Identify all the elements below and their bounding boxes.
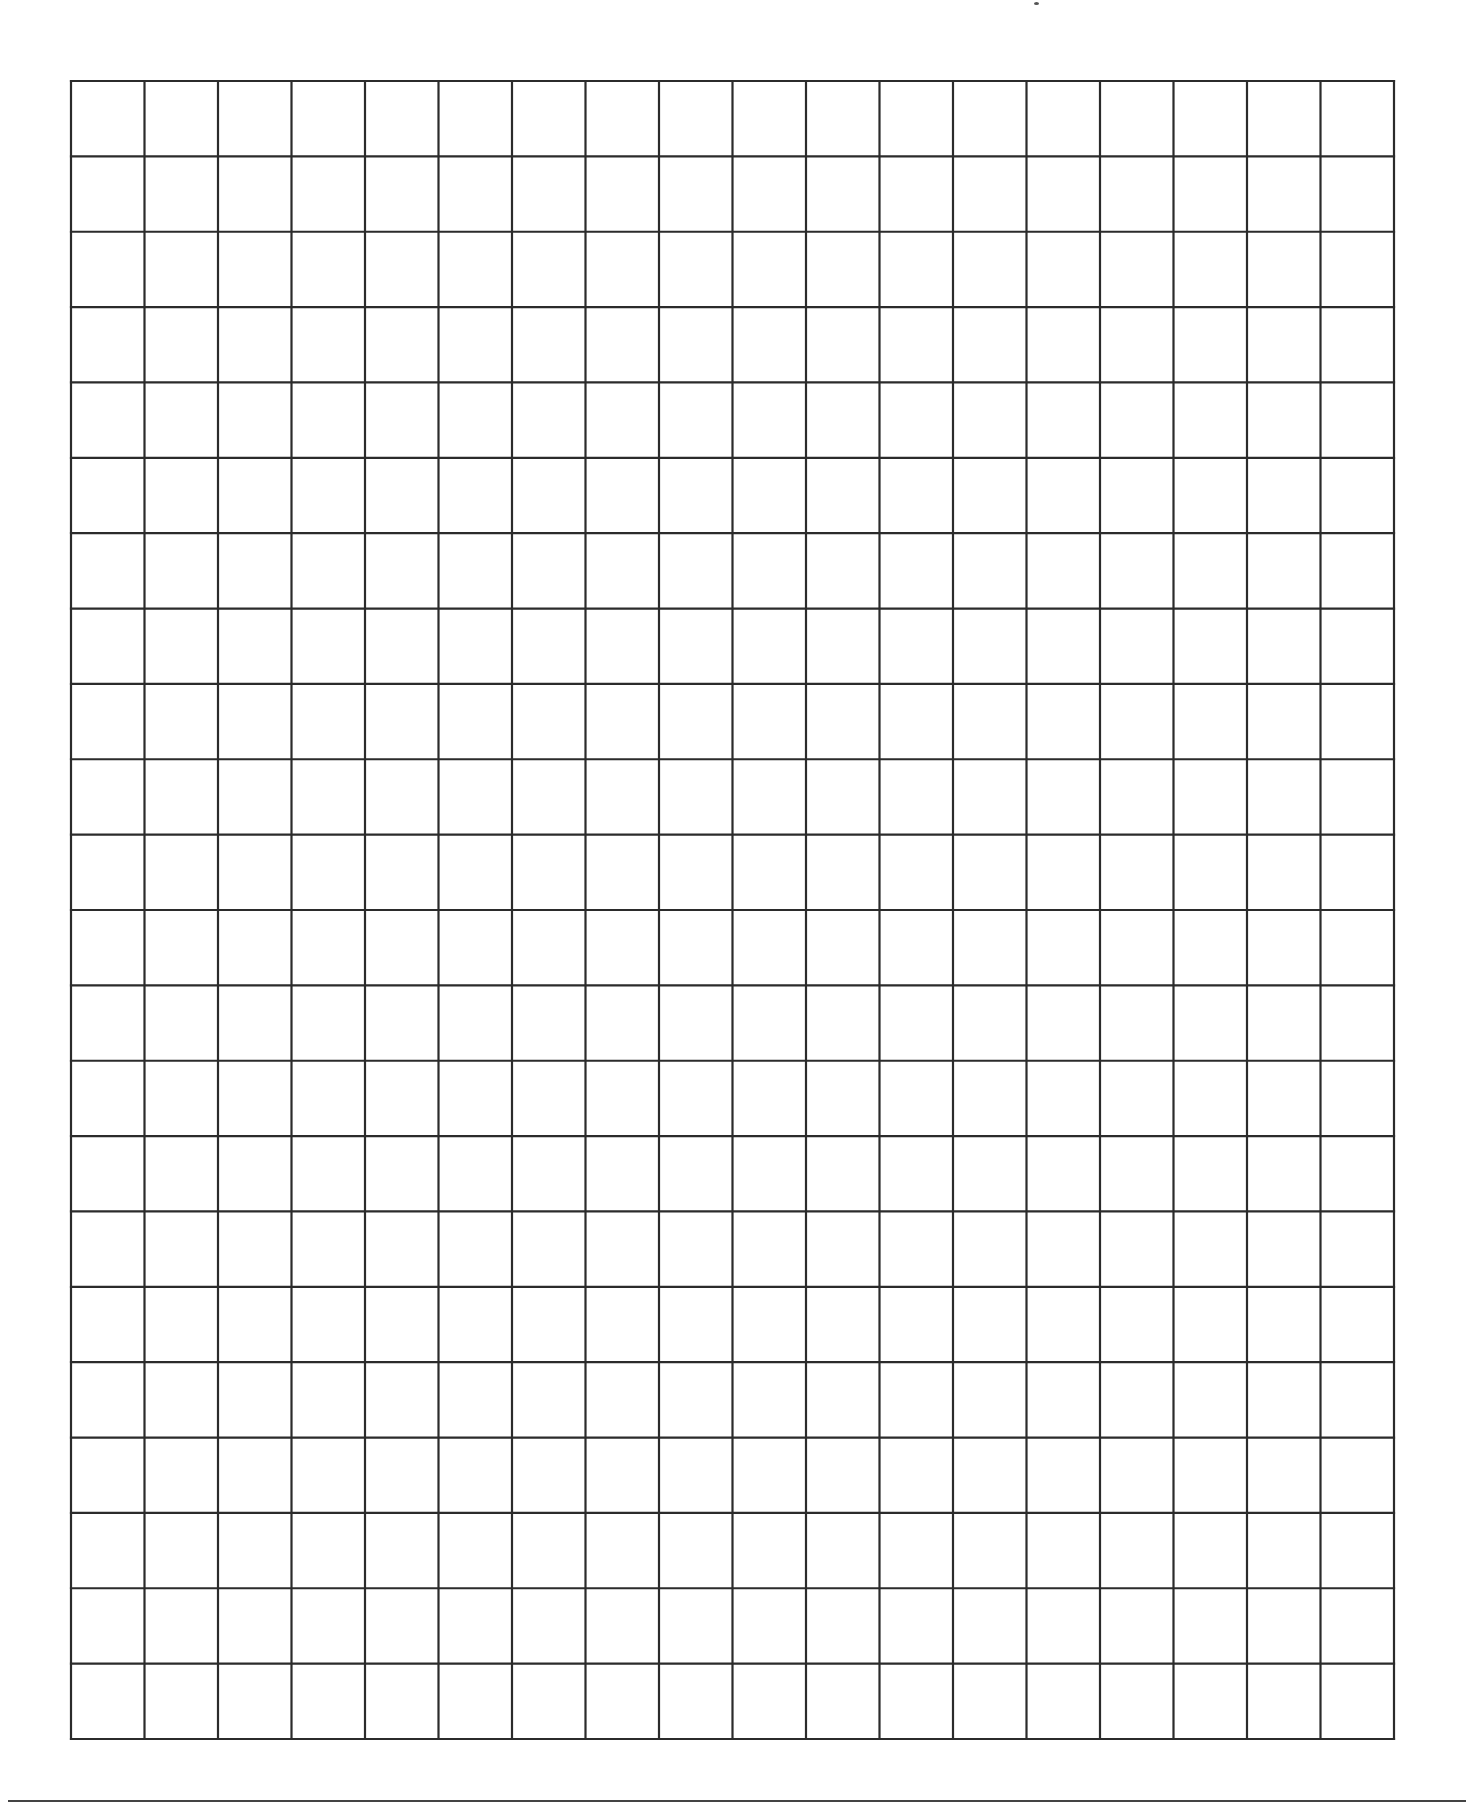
graph-paper-grid — [0, 0, 1466, 1811]
footer-rule-line — [8, 1800, 1466, 1802]
stray-scan-mark — [1034, 2, 1039, 5]
